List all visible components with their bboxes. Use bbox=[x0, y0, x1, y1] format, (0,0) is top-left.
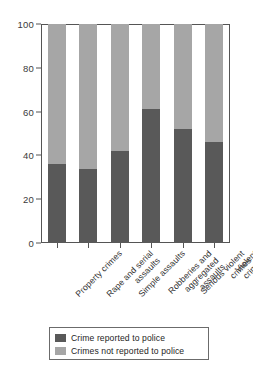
bar-segment-not-reported[interactable] bbox=[205, 24, 223, 142]
legend-label-not-reported: Crimes not reported to police bbox=[71, 346, 184, 356]
x-axis-labels: Property crimesRape and serial assaultsS… bbox=[0, 243, 253, 323]
stacked-bar-chart: 020406080100 Property crimesRape and ser… bbox=[0, 0, 253, 372]
bar-segment-reported[interactable] bbox=[174, 129, 192, 243]
legend-label-reported: Crime reported to police bbox=[71, 333, 165, 343]
bars-layer bbox=[41, 24, 230, 243]
bar-segment-reported[interactable] bbox=[48, 164, 66, 243]
legend-swatch-not-reported bbox=[55, 347, 66, 355]
bar-segment-reported[interactable] bbox=[142, 109, 160, 243]
chart-legend: Crime reported to police Crimes not repo… bbox=[49, 327, 209, 360]
y-tick-label: 40 bbox=[23, 150, 34, 161]
legend-swatch-reported bbox=[55, 334, 66, 342]
bar-group[interactable] bbox=[79, 24, 97, 243]
y-axis: 020406080100 bbox=[0, 24, 41, 243]
y-tick-label: 80 bbox=[23, 62, 34, 73]
bar-segment-reported[interactable] bbox=[111, 151, 129, 243]
y-tick-label: 60 bbox=[23, 106, 34, 117]
bar-segment-reported[interactable] bbox=[205, 142, 223, 243]
y-tick-label: 100 bbox=[18, 19, 34, 30]
bar-segment-not-reported[interactable] bbox=[174, 24, 192, 129]
bar-segment-reported[interactable] bbox=[79, 169, 97, 243]
bar-segment-not-reported[interactable] bbox=[48, 24, 66, 164]
bar-group[interactable] bbox=[174, 24, 192, 243]
bar-segment-not-reported[interactable] bbox=[111, 24, 129, 151]
bar-group[interactable] bbox=[142, 24, 160, 243]
bar-group[interactable] bbox=[205, 24, 223, 243]
bar-segment-not-reported[interactable] bbox=[142, 24, 160, 109]
y-tick-label: 20 bbox=[23, 194, 34, 205]
bar-segment-not-reported[interactable] bbox=[79, 24, 97, 169]
bar-group[interactable] bbox=[48, 24, 66, 243]
legend-item-reported: Crime reported to police bbox=[55, 331, 203, 344]
cropped-header-text bbox=[133, 0, 251, 8]
bar-group[interactable] bbox=[111, 24, 129, 243]
legend-item-not-reported: Crimes not reported to police bbox=[55, 344, 203, 357]
